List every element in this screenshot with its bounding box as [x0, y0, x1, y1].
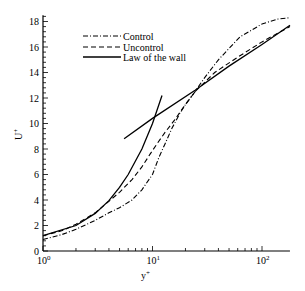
y-tick-label: 16: [29, 42, 39, 53]
x-tick-label: 100: [37, 254, 51, 266]
y-tick-label: 18: [29, 16, 39, 27]
legend-label-control: Control: [123, 31, 154, 42]
chart: 024681012141618100101102 Control Uncontr…: [0, 0, 305, 291]
legend: Control Uncontrol Law of the wall: [83, 31, 186, 63]
y-tick-label: 4: [34, 195, 39, 206]
y-tick-label: 12: [29, 93, 39, 104]
y-tick-label: 6: [34, 169, 39, 180]
x-tick-label: 101: [147, 254, 161, 266]
y-tick-label: 8: [34, 144, 39, 155]
x-tick-label: 102: [256, 254, 270, 266]
x-axis-title: y+: [141, 269, 150, 281]
series-law-of-the-wall: [43, 96, 162, 236]
y-tick-label: 10: [29, 118, 39, 129]
y-tick-label: 2: [34, 220, 39, 231]
y-tick-label: 14: [29, 67, 39, 78]
y-axis-title: U+: [12, 129, 24, 140]
legend-label-law-of-the-wall: Law of the wall: [123, 52, 186, 63]
